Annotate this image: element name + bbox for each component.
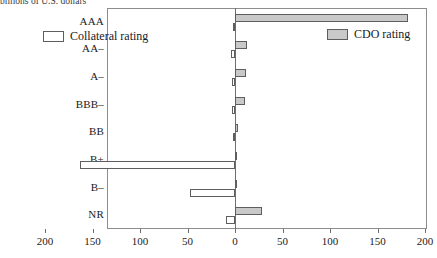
legend-item-collateral: Collateral rating <box>43 30 148 42</box>
x-axis-tick-label: 200 <box>405 236 437 247</box>
y-axis-tick-label: A– <box>0 71 104 82</box>
legend-swatch-collateral-icon <box>43 31 64 42</box>
bar-collateral-AAA <box>233 23 235 31</box>
y-axis-tick-label: BB <box>0 126 104 137</box>
bar-collateral-NR <box>226 216 236 224</box>
bar-collateral-A <box>232 78 235 86</box>
bar-cdo-B <box>235 180 237 188</box>
bar-cdo-BBB <box>235 97 245 105</box>
x-axis-tick <box>140 229 141 233</box>
y-axis-tick-label: AA– <box>0 43 104 54</box>
x-axis-tick <box>425 229 426 233</box>
bar-cdo-A <box>235 69 246 77</box>
x-axis-tick-label: 100 <box>120 236 160 247</box>
bar-cdo-B+ <box>235 152 237 160</box>
x-axis-tick-label: 0 <box>215 236 255 247</box>
bar-cdo-BB <box>235 124 238 132</box>
bar-cdo-AAA <box>235 14 408 22</box>
x-axis-tick-label: 100 <box>310 236 350 247</box>
legend-label-collateral: Collateral rating <box>70 30 148 42</box>
bar-collateral-AA <box>231 50 235 58</box>
x-axis-tick-label: 150 <box>358 236 398 247</box>
x-axis-tick-label: 50 <box>263 236 303 247</box>
x-axis: 20015010050050100150200 <box>0 229 437 258</box>
bar-collateral-BBB <box>232 106 235 114</box>
legend-item-cdo: CDO rating <box>327 28 410 40</box>
x-axis-tick-label: 200 <box>25 236 65 247</box>
x-axis-tick <box>93 229 94 233</box>
bar-collateral-B <box>190 189 235 197</box>
x-axis-tick-label: 50 <box>168 236 208 247</box>
bar-cdo-AA <box>235 41 247 49</box>
y-axis-tick-label: NR <box>0 209 104 220</box>
x-axis-tick <box>378 229 379 233</box>
y-axis-tick-label: B– <box>0 182 104 193</box>
bar-collateral-B+ <box>80 161 235 169</box>
legend-label-cdo: CDO rating <box>354 28 410 40</box>
x-axis-tick-label: 150 <box>73 236 113 247</box>
bar-cdo-NR <box>235 207 262 215</box>
y-axis-tick-label: AAA <box>0 16 104 27</box>
x-axis-tick <box>235 229 236 233</box>
bar-collateral-BB <box>233 133 235 141</box>
x-axis-tick <box>283 229 284 233</box>
x-axis-tick <box>330 229 331 233</box>
y-axis-tick-label: BBB– <box>0 99 104 110</box>
x-axis-tick <box>188 229 189 233</box>
x-axis-tick <box>45 229 46 233</box>
plot-area <box>107 8 427 229</box>
chart-container: billions of U.S. dollars AAAAA–A–BBB–BBB… <box>0 0 437 258</box>
legend-swatch-cdo-icon <box>327 29 348 40</box>
